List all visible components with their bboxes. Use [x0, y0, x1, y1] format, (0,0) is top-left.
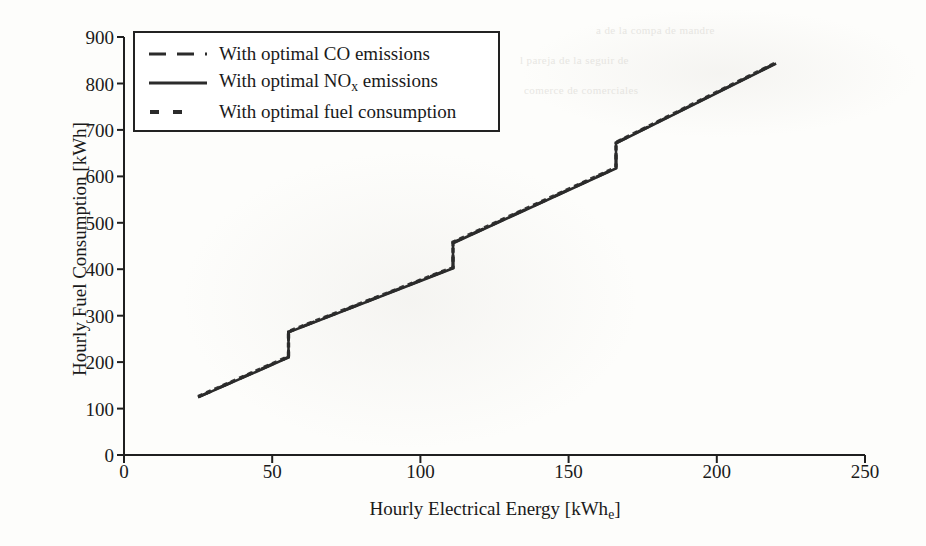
x-axis-ticks	[124, 455, 865, 463]
y-axis-ticks	[117, 37, 124, 455]
x-axis-title-bracket: ]	[614, 498, 620, 519]
x-tick-label: 0	[89, 462, 159, 481]
y-axis-title-text: Hourly Fuel Consumption [kWh]	[69, 122, 90, 376]
legend-label: With optimal fuel consumption	[219, 102, 456, 121]
legend-item-optimal-nox-emissions: With optimal NOx emissions	[135, 68, 498, 97]
x-tick-label: 50	[237, 462, 307, 481]
legend-label-tail: emissions	[358, 70, 438, 91]
x-axis-title-text: Hourly Electrical Energy [kWh	[369, 498, 608, 519]
chart-legend: With optimal CO emissions With optimal N…	[133, 31, 500, 132]
x-tick-label: 250	[830, 462, 900, 481]
x-axis-title: Hourly Electrical Energy [kWhe]	[124, 498, 866, 523]
long-dash-line-icon	[147, 47, 209, 61]
x-tick-label: 200	[682, 462, 752, 481]
solid-line-icon	[147, 76, 209, 90]
legend-item-optimal-fuel-consumption: With optimal fuel consumption	[135, 97, 498, 126]
y-axis-title: Hourly Fuel Consumption [kWh]	[69, 39, 91, 459]
chart-figure: 0 100 200 300 400 500 600 700 800 900 0 …	[0, 0, 926, 546]
legend-label: With optimal NOx emissions	[219, 71, 438, 94]
legend-label-main: With optimal NO	[219, 70, 351, 91]
short-dash-line-icon	[147, 105, 209, 119]
x-tick-label: 100	[385, 462, 455, 481]
x-tick-label: 150	[534, 462, 604, 481]
legend-label: With optimal CO emissions	[219, 44, 430, 63]
legend-item-optimal-co-emissions: With optimal CO emissions	[135, 39, 498, 68]
